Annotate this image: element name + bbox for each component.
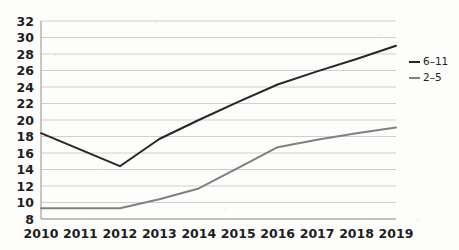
y-axis-tick-label: 8 (25, 212, 34, 227)
x-axis-tick-label: 2011 (63, 226, 98, 241)
x-axis-tick-label: 2012 (102, 226, 137, 241)
x-axis-tick-labels: 2010201120122013201420152016201720182019 (24, 226, 414, 241)
line-chart: 3230282624222018161412108 20102011201220… (0, 0, 459, 250)
x-axis-tick-label: 2015 (221, 226, 256, 241)
x-axis-tick-label: 2017 (300, 226, 335, 241)
y-axis-tick-label: 20 (17, 113, 35, 128)
series-line-2-5 (41, 127, 396, 208)
y-axis-tick-label: 28 (17, 47, 34, 62)
gridlines (41, 21, 396, 219)
y-axis-tick-label: 26 (17, 63, 35, 78)
legend-label-1: 6–11 (423, 55, 448, 67)
x-axis-tick-label: 2014 (181, 226, 216, 241)
legend-label-2: 2–5 (423, 71, 442, 83)
y-axis-tick-label: 22 (17, 96, 34, 111)
x-axis-tick-label: 2016 (260, 226, 295, 241)
x-axis-tick-label: 2010 (24, 226, 59, 241)
y-axis-tick-labels: 3230282624222018161412108 (17, 14, 35, 227)
x-axis-tick-label: 2019 (379, 226, 414, 241)
y-axis-tick-label: 18 (17, 129, 34, 144)
y-axis-tick-label: 16 (17, 146, 35, 161)
x-axis-tick-label: 2013 (142, 226, 177, 241)
x-axis-tick-label: 2018 (339, 226, 374, 241)
chart-page: 3230282624222018161412108 20102011201220… (0, 0, 459, 250)
y-axis-tick-label: 10 (17, 195, 35, 210)
series-line-6-11 (41, 46, 396, 166)
y-axis-tick-label: 24 (17, 80, 35, 95)
chart-legend: 6–112–5 (409, 55, 448, 83)
y-axis-tick-label: 30 (17, 30, 35, 45)
y-axis-tick-label: 12 (17, 179, 34, 194)
y-axis-tick-label: 32 (17, 14, 34, 29)
y-axis-tick-label: 14 (17, 162, 35, 177)
